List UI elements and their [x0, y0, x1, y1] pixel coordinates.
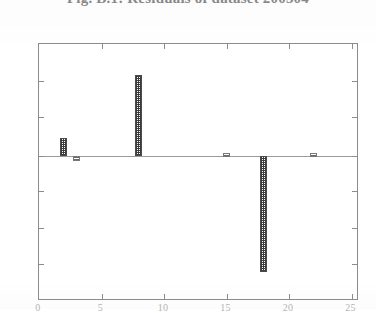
- x-axis-tick: [164, 44, 165, 49]
- x-axis-tick: [352, 294, 353, 299]
- y-axis-tick: [352, 264, 357, 265]
- x-tick-label: 25: [336, 302, 366, 313]
- x-axis-tick: [289, 294, 290, 299]
- x-tick-label: 20: [273, 302, 303, 313]
- residuals-bar-chart: 0.3 0.2 0.1 0 -0.1 -0.2 -0.3 -0.4 0 5 10…: [0, 11, 376, 309]
- x-axis-tick: [227, 294, 228, 299]
- bar: [223, 153, 230, 157]
- x-axis-tick: [102, 44, 103, 49]
- x-axis-tick: [102, 294, 103, 299]
- y-axis-tick: [39, 191, 44, 192]
- bar: [73, 156, 80, 161]
- y-axis-tick: [39, 81, 44, 82]
- figure-caption-clip: Fig. B.1: Residuals of dataset 200304: [0, 0, 376, 11]
- x-axis-tick: [289, 44, 290, 49]
- x-axis-tick: [352, 44, 353, 49]
- y-axis-tick: [352, 81, 357, 82]
- y-axis-tick: [352, 156, 357, 157]
- bar: [60, 138, 67, 156]
- y-axis-tick: [39, 264, 44, 265]
- figure-caption: Fig. B.1: Residuals of dataset 200304: [67, 0, 309, 7]
- x-tick-label: 5: [86, 302, 116, 313]
- bar: [260, 156, 267, 272]
- y-axis-tick: [39, 156, 44, 157]
- bar: [135, 75, 142, 157]
- x-tick-label: 0: [23, 302, 53, 313]
- y-axis-tick: [352, 191, 357, 192]
- x-tick-label: 10: [148, 302, 178, 313]
- x-axis-tick: [227, 44, 228, 49]
- y-axis-tick: [39, 228, 44, 229]
- plot-area: [38, 43, 358, 300]
- x-axis-tick: [164, 294, 165, 299]
- y-axis-tick: [39, 117, 44, 118]
- y-axis-tick: [352, 228, 357, 229]
- x-tick-label: 15: [211, 302, 241, 313]
- bar: [310, 153, 317, 157]
- y-axis-tick: [352, 117, 357, 118]
